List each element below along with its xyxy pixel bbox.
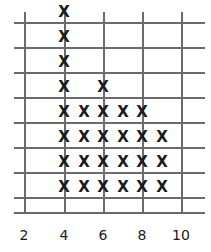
- data-point-x-mark: X: [56, 52, 72, 72]
- data-point-x-mark: X: [76, 177, 92, 197]
- gridline-horizontal: [14, 97, 205, 99]
- data-point-x-mark: X: [76, 152, 92, 172]
- data-point-x-mark: X: [134, 177, 150, 197]
- data-point-x-mark: X: [76, 102, 92, 122]
- data-point-x-mark: X: [56, 27, 72, 47]
- data-point-x-mark: X: [134, 102, 150, 122]
- data-point-x-mark: X: [56, 2, 72, 22]
- x-axis-tick-label: 4: [49, 227, 79, 243]
- gridline-vertical: [24, 12, 26, 212]
- x-axis-line: [14, 212, 205, 214]
- gridline-horizontal: [14, 122, 205, 124]
- gridline-horizontal: [14, 22, 205, 24]
- data-point-x-mark: X: [95, 77, 111, 97]
- data-point-x-mark: X: [95, 152, 111, 172]
- data-point-x-mark: X: [95, 177, 111, 197]
- data-point-x-mark: X: [56, 102, 72, 122]
- gridline-horizontal: [14, 197, 205, 199]
- dot-plot-figure: X X X X X X X X X X X X X X X X X X X X …: [0, 0, 211, 252]
- data-point-x-mark: X: [95, 127, 111, 147]
- data-point-x-mark: X: [95, 102, 111, 122]
- data-point-x-mark: X: [56, 127, 72, 147]
- data-point-x-mark: X: [134, 127, 150, 147]
- data-point-x-mark: X: [56, 77, 72, 97]
- data-point-x-mark: X: [115, 177, 131, 197]
- data-point-x-mark: X: [115, 127, 131, 147]
- data-point-x-mark: X: [76, 127, 92, 147]
- x-axis-tick-label: 10: [166, 227, 196, 243]
- gridline-horizontal: [14, 47, 205, 49]
- data-point-x-mark: X: [154, 152, 170, 172]
- data-point-x-mark: X: [154, 127, 170, 147]
- x-axis-tick-label: 6: [88, 227, 118, 243]
- x-axis-tick-label: 8: [127, 227, 157, 243]
- x-axis-tick-label: 2: [9, 227, 39, 243]
- data-point-x-mark: X: [56, 152, 72, 172]
- gridline-horizontal: [14, 147, 205, 149]
- gridline-vertical: [181, 12, 183, 212]
- data-point-x-mark: X: [115, 102, 131, 122]
- data-point-x-mark: X: [134, 152, 150, 172]
- data-point-x-mark: X: [115, 152, 131, 172]
- data-point-x-mark: X: [154, 177, 170, 197]
- gridline-horizontal: [14, 72, 205, 74]
- data-point-x-mark: X: [56, 177, 72, 197]
- gridline-horizontal: [14, 172, 205, 174]
